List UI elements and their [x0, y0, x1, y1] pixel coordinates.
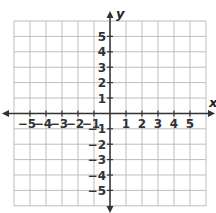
y-tick-label: 2 — [98, 76, 106, 90]
x-axis-arrow-left-icon — [2, 110, 9, 117]
y-tick-label: 4 — [98, 45, 106, 59]
x-tick-label: 5 — [186, 117, 194, 131]
y-axis-label: y — [116, 6, 125, 21]
x-tick-label: 4 — [170, 117, 178, 131]
y-tick-label: 1 — [98, 92, 106, 106]
y-tick-label: 5 — [98, 30, 106, 44]
y-tick-label: −3 — [88, 153, 106, 167]
y-axis-arrow-up-icon — [107, 11, 114, 18]
x-tick-label: 1 — [122, 117, 130, 131]
y-axis-arrow-down-icon — [107, 206, 114, 213]
y-tick-label: −1 — [88, 122, 106, 136]
coordinate-plane: −5−4−3−2−11234554321−1−2−3−4−5 x y — [0, 0, 216, 213]
x-tick-label: 3 — [154, 117, 162, 131]
y-tick-label: −4 — [88, 169, 106, 183]
axes — [2, 11, 215, 213]
y-tick-label: −2 — [88, 138, 106, 152]
x-axis-arrow-right-icon — [208, 110, 215, 117]
y-tick-label: 3 — [98, 61, 106, 75]
x-tick-label: 2 — [138, 117, 146, 131]
x-axis-label: x — [208, 95, 216, 110]
y-tick-label: −5 — [88, 184, 106, 198]
